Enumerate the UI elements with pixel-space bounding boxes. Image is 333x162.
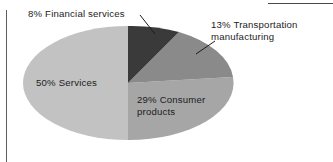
chart-area: 8% Financial services 13% Transportation… bbox=[0, 0, 333, 162]
pie-chart-figure: 8% Financial services 13% Transportation… bbox=[0, 0, 333, 162]
slice-label-services: 50% Services bbox=[36, 77, 97, 89]
slice-label-transportation: 13% Transportation manufacturing bbox=[211, 19, 298, 42]
slice-label-consumer-products: 29% Consumer products bbox=[137, 94, 205, 117]
slice-label-financial-services: 8% Financial services bbox=[28, 8, 125, 20]
